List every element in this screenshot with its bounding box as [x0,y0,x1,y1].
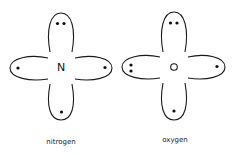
nitrogen-top-lobe [48,13,73,52]
oxygen-nucleus-icon [171,64,178,71]
nitrogen-right-lobe [75,56,112,80]
nitrogen-symbol: N [54,61,68,74]
nitrogen-label: nitrogen [31,138,91,146]
nitrogen-left-lobe [10,56,48,80]
orbital-drawing [0,0,235,158]
orbital-diagram: N nitrogen oxygen [0,0,235,158]
oxygen-bottom-lobe [161,83,186,120]
oxygen-right-lobe [188,55,225,79]
oxygen-left-lobe [122,55,160,79]
oxygen-label: oxygen [145,136,205,144]
nitrogen-bottom-lobe [48,84,73,120]
oxygen-top-lobe [161,12,186,52]
